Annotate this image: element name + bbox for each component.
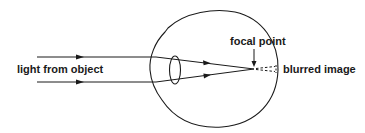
arrow-icon: [203, 60, 211, 65]
dashed-ray-top: [256, 67, 275, 69]
arrow-icon: [76, 80, 84, 85]
arrow-icon: [76, 55, 84, 60]
blurred-image-label: blurred image: [283, 64, 356, 75]
arrow-icon: [203, 74, 211, 79]
light-from-object-label: light from object: [17, 64, 103, 75]
dashed-ray-bottom: [256, 70, 275, 72]
down-arrow-icon: [252, 61, 257, 67]
focal-point-label: focal point: [230, 36, 286, 47]
